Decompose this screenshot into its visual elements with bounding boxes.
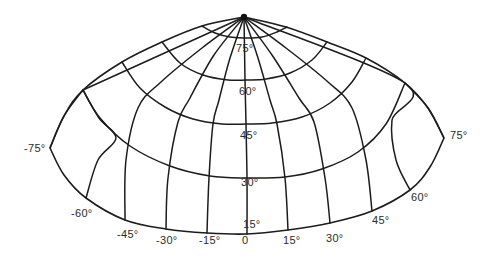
longitude-label: 0 xyxy=(242,234,248,246)
latitude-label: 60° xyxy=(239,85,257,97)
latitude-labels: 75°60°45°30°15° xyxy=(236,42,261,230)
meridian-line xyxy=(83,90,116,198)
longitude-label: -15° xyxy=(199,234,221,246)
latitude-label: 75° xyxy=(236,42,254,54)
longitude-label: 75° xyxy=(450,129,468,141)
meridian-line xyxy=(405,83,444,138)
pole-point-icon xyxy=(241,14,247,20)
longitude-label: 30° xyxy=(326,232,344,244)
meridian-line xyxy=(50,90,83,148)
latitude-label: 15° xyxy=(243,218,261,230)
latitude-label: 45° xyxy=(240,129,258,141)
meridian-line xyxy=(125,17,244,220)
longitude-label: -75° xyxy=(24,142,46,154)
longitude-label: -45° xyxy=(117,228,139,240)
latitude-label: 30° xyxy=(241,176,259,188)
outline-top-left-edge xyxy=(50,17,244,148)
longitude-label: -60° xyxy=(71,207,93,219)
longitude-label: 15° xyxy=(283,234,301,246)
longitude-label: 45° xyxy=(372,214,390,226)
longitude-label: 60° xyxy=(411,191,429,203)
projection-graticule-diagram: 75°60°45°30°15° -75°-60°-45°-30°-15°015°… xyxy=(0,0,489,258)
longitude-label: -30° xyxy=(156,234,178,246)
